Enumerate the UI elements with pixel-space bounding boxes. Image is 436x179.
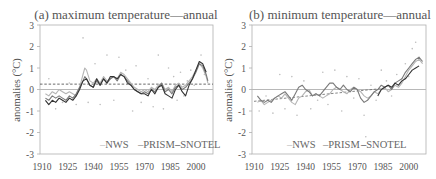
data-point (99, 104, 101, 106)
y-tick-label: -1 (26, 107, 34, 117)
panel-a-ylabel: anomalies (°C) (11, 58, 23, 122)
y-tick-label: 3 (241, 21, 246, 31)
data-point (327, 104, 329, 106)
x-tick-label: 1925 (270, 162, 289, 172)
chart-canvas: (a) maximum temperature—annual anomalies… (0, 0, 436, 179)
data-point (279, 74, 281, 76)
data-point (291, 76, 293, 78)
legend-nws: –NWS (286, 139, 316, 150)
y-tick-label: 1 (241, 64, 246, 74)
x-tick-label: 1955 (322, 162, 341, 172)
data-point (190, 69, 192, 71)
data-point (353, 97, 355, 99)
x-tick-label: 1910 (33, 162, 52, 172)
data-point (135, 65, 137, 67)
data-point (303, 80, 305, 82)
data-point (168, 67, 170, 69)
y-tick-label: 0 (29, 85, 34, 95)
data-point (272, 112, 274, 114)
data-point (317, 99, 319, 101)
data-point (346, 76, 348, 78)
panel-a-plot-area (40, 25, 213, 154)
data-point (187, 80, 189, 82)
data-point (322, 72, 324, 74)
y-tick-label: -2 (238, 128, 246, 138)
panel-b-x-ticks: 1910192519401955197019852000 (245, 162, 419, 172)
data-point (132, 110, 134, 112)
legend-snotel: –SNOTEL (360, 139, 407, 150)
y-tick-label: 2 (29, 42, 34, 52)
y-tick-label: -2 (26, 128, 34, 138)
data-point (55, 108, 57, 110)
series-line-prism (257, 57, 422, 102)
panel-min-temperature: (b) minimum temperature—annual anomalies… (223, 7, 431, 172)
data-point (365, 136, 367, 138)
data-point (82, 37, 84, 39)
data-point (284, 108, 286, 110)
legend-snotel: –SNOTEL (174, 139, 221, 150)
y-tick-label: -3 (26, 150, 34, 160)
series-line-nws (257, 59, 422, 104)
legend-prism-label: PRISM (143, 139, 175, 150)
x-tick-label: 1985 (374, 162, 393, 172)
panel-b-legend: –NWS –PRISM –SNOTEL (286, 139, 407, 150)
legend-prism-label: PRISM (328, 139, 360, 150)
x-tick-label: 1955 (109, 162, 128, 172)
data-point (157, 54, 159, 56)
data-point (396, 74, 398, 76)
data-point (380, 69, 382, 71)
data-point (94, 63, 96, 65)
data-point (358, 78, 360, 80)
x-tick-label: 1940 (296, 162, 315, 172)
panel-a-x-ticks: 1910192519401955197019852000 (33, 162, 206, 172)
y-tick-label: 0 (241, 85, 246, 95)
y-tick-label: -3 (238, 150, 246, 160)
panel-max-temperature: (a) maximum temperature—annual anomalies… (11, 7, 221, 172)
panel-a-title: (a) maximum temperature—annual (34, 7, 218, 22)
data-point (75, 104, 77, 106)
chart-figure: (a) maximum temperature—annual anomalies… (0, 0, 436, 179)
data-point (147, 78, 149, 80)
x-tick-label: 1925 (58, 162, 77, 172)
data-point (69, 82, 71, 84)
data-point (375, 99, 377, 101)
data-point (405, 63, 407, 65)
data-point (341, 110, 343, 112)
data-point (125, 69, 127, 71)
data-point (193, 84, 195, 86)
legend-prism: –PRISM (322, 139, 360, 150)
data-point (363, 115, 365, 117)
data-point (113, 99, 115, 101)
data-point (173, 76, 175, 78)
data-point (411, 48, 413, 50)
x-tick-label: 1985 (161, 162, 180, 172)
data-point (180, 72, 182, 74)
data-point (140, 102, 142, 104)
legend-nws: –NWS (99, 139, 129, 150)
x-tick-label: 1970 (348, 162, 367, 172)
data-point (370, 84, 372, 86)
data-point (265, 95, 267, 97)
x-tick-label: 1970 (135, 162, 154, 172)
data-point (106, 54, 108, 56)
data-point (200, 54, 202, 56)
x-tick-label: 2000 (186, 162, 205, 172)
x-tick-label: 1940 (84, 162, 103, 172)
data-point (310, 108, 312, 110)
panel-a-legend: –NWS –PRISM –SNOTEL (99, 139, 221, 150)
x-tick-label: 1910 (245, 162, 264, 172)
data-point (118, 56, 120, 58)
panel-b-title: (b) minimum temperature—annual (249, 7, 431, 22)
legend-snotel-label: SNOTEL (366, 139, 406, 150)
legend-nws-label: NWS (292, 139, 315, 150)
data-point (152, 106, 154, 108)
data-point (62, 102, 64, 104)
data-point (163, 108, 165, 110)
legend-prism: –PRISM (137, 139, 175, 150)
legend-nws-label: NWS (105, 139, 128, 150)
panel-b-y-ticks: 3210-1-2-3 (238, 21, 252, 160)
panel-b-ylabel: anomalies (°C) (223, 58, 235, 122)
legend-snotel-label: SNOTEL (180, 139, 220, 150)
y-tick-label: 3 (29, 21, 34, 31)
y-tick-label: -1 (238, 107, 246, 117)
